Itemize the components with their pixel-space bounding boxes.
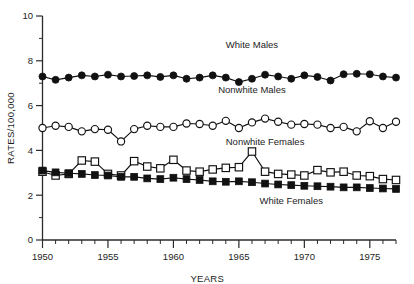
x-tick-label: 1970 xyxy=(294,251,315,262)
data-point xyxy=(78,128,85,135)
data-point xyxy=(392,118,399,125)
series-label-0: White Males xyxy=(226,39,279,50)
data-point xyxy=(170,174,177,181)
data-point xyxy=(393,74,400,81)
y-tick-label: 8 xyxy=(28,55,33,66)
data-point xyxy=(248,148,255,155)
y-axis-title: RATES/100,000 xyxy=(5,92,16,164)
data-point xyxy=(52,76,59,83)
series-label-3: White Females xyxy=(260,195,324,206)
data-point xyxy=(144,163,151,170)
data-point xyxy=(170,156,177,163)
data-point xyxy=(78,171,85,178)
data-point xyxy=(262,180,269,187)
data-point xyxy=(104,71,111,78)
data-point xyxy=(301,182,308,189)
data-point xyxy=(288,171,295,178)
data-point xyxy=(183,176,190,183)
data-point xyxy=(274,170,281,177)
data-point xyxy=(157,73,164,80)
data-point xyxy=(301,172,308,179)
data-point xyxy=(340,168,347,175)
data-point xyxy=(105,172,112,179)
data-point xyxy=(39,124,46,131)
data-point xyxy=(39,73,46,80)
data-point xyxy=(235,124,242,131)
data-point xyxy=(275,73,282,80)
y-tick-label: 10 xyxy=(22,10,33,21)
data-point xyxy=(353,184,360,191)
x-axis-title: YEARS xyxy=(190,273,224,284)
data-point xyxy=(222,178,229,185)
data-point xyxy=(392,176,399,183)
series-label-1: Nonwhite Males xyxy=(218,84,286,95)
x-tick-label: 1960 xyxy=(163,251,184,262)
data-point xyxy=(170,72,177,79)
data-point xyxy=(131,126,138,133)
data-point xyxy=(209,122,216,129)
data-point xyxy=(353,128,360,135)
y-tick-label: 2 xyxy=(28,190,33,201)
data-point xyxy=(248,119,255,126)
data-point xyxy=(340,123,347,130)
data-point xyxy=(288,121,295,128)
data-point xyxy=(118,73,125,80)
data-point xyxy=(340,184,347,191)
data-point xyxy=(209,178,216,185)
data-point xyxy=(144,122,151,129)
data-point xyxy=(104,126,111,133)
data-point xyxy=(248,75,255,82)
data-point xyxy=(131,173,138,180)
data-point xyxy=(65,170,72,177)
data-point xyxy=(314,73,321,80)
data-point xyxy=(314,166,321,173)
data-point xyxy=(65,74,72,81)
data-point xyxy=(91,73,98,80)
data-point xyxy=(196,168,203,175)
data-point xyxy=(157,176,164,183)
data-point xyxy=(222,74,229,81)
data-point xyxy=(261,115,268,122)
data-point xyxy=(52,122,59,129)
data-point xyxy=(288,75,295,82)
data-point xyxy=(170,123,177,130)
data-point xyxy=(52,169,59,176)
data-point xyxy=(366,118,373,125)
data-point xyxy=(130,157,137,164)
data-point xyxy=(275,118,282,125)
data-point xyxy=(222,164,229,171)
data-point xyxy=(157,123,164,130)
data-point xyxy=(327,169,334,176)
data-point xyxy=(327,183,334,190)
x-tick-label: 1965 xyxy=(228,251,249,262)
data-point xyxy=(196,120,203,127)
data-point xyxy=(314,183,321,190)
data-point xyxy=(39,167,46,174)
data-point xyxy=(235,178,242,185)
data-point xyxy=(91,126,98,133)
data-point xyxy=(117,138,124,145)
data-point xyxy=(353,70,360,77)
data-point xyxy=(393,186,400,193)
data-point xyxy=(379,73,386,80)
y-tick-label: 4 xyxy=(28,145,33,156)
data-point xyxy=(118,173,125,180)
series-label-2: Nonwhite Females xyxy=(226,136,305,147)
y-tick-label: 6 xyxy=(28,100,33,111)
data-point xyxy=(249,179,256,186)
data-point xyxy=(262,71,269,78)
data-point xyxy=(261,168,268,175)
data-point xyxy=(327,124,334,131)
data-point xyxy=(340,71,347,78)
data-point xyxy=(157,165,164,172)
data-point xyxy=(314,121,321,128)
data-point xyxy=(235,164,242,171)
data-point xyxy=(209,72,216,79)
chart-figure: 0246810195019551960196519701975RATES/100… xyxy=(0,0,414,284)
data-point xyxy=(209,166,216,173)
data-point xyxy=(353,172,360,179)
chart-canvas: 0246810195019551960196519701975RATES/100… xyxy=(0,0,414,284)
data-point xyxy=(288,182,295,189)
data-point xyxy=(183,120,190,127)
x-tick-label: 1955 xyxy=(97,251,118,262)
